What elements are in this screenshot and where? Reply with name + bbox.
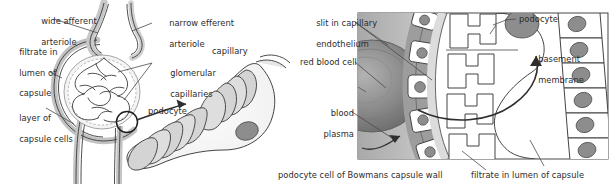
label-line: wide afferent	[41, 16, 97, 26]
label-slit-in-capillary-endothelium: slit in capillary endothelium	[300, 8, 358, 59]
label-line: membrane	[538, 75, 584, 85]
label-line: lumen of	[19, 68, 56, 78]
label-line: glomerular	[170, 68, 216, 78]
label-line: narrow efferent	[169, 18, 234, 28]
label-layer-of-capsule-cells: layer of capsule cells	[3, 103, 73, 154]
efferent-arteriole	[127, 3, 142, 58]
label-line: basement	[538, 54, 580, 64]
label-line: blood	[331, 108, 354, 118]
label-glomerular-capillaries: glomerular capillaries	[154, 58, 216, 109]
glomerular-capillary-tuft	[64, 55, 140, 129]
label-red-blood-cell: red blood cell	[300, 57, 356, 67]
label-basement-membrane: basement membrane	[522, 44, 584, 95]
label-line: endothelium	[316, 39, 369, 49]
label-blood-plasma: blood plasma	[300, 98, 354, 149]
label-line: slit in capillary	[316, 18, 377, 28]
label-capillary: capillary	[212, 46, 248, 56]
label-line: plasma	[324, 129, 354, 139]
label-line: capsule cells	[19, 134, 73, 144]
label-podocyte: podocyte	[148, 106, 187, 116]
label-podocyte-right: podocyte	[519, 14, 558, 24]
label-line: capillaries	[170, 89, 213, 99]
label-line: filtrate in	[19, 47, 57, 57]
label-filtrate-in-lumen-of-capsule: filtrate in lumen of capsule	[3, 37, 58, 108]
bowmans-capsule-panel: wide afferent arteriole narrow efferent …	[0, 0, 300, 184]
capillary-wall-panel: slit in capillary endothelium red blood …	[300, 0, 614, 184]
label-filtrate-in-lumen-of-capsule-right: filtrate in lumen of capsule	[471, 170, 584, 180]
figure-canvas: wide afferent arteriole narrow efferent …	[0, 0, 614, 184]
label-line: arteriole	[169, 39, 205, 49]
label-podocyte-cell-of-bowmans-capsule-wall: podocyte cell of Bowmans capsule wall	[278, 170, 443, 180]
label-line: capsule	[19, 88, 51, 98]
label-line: layer of	[19, 113, 51, 123]
